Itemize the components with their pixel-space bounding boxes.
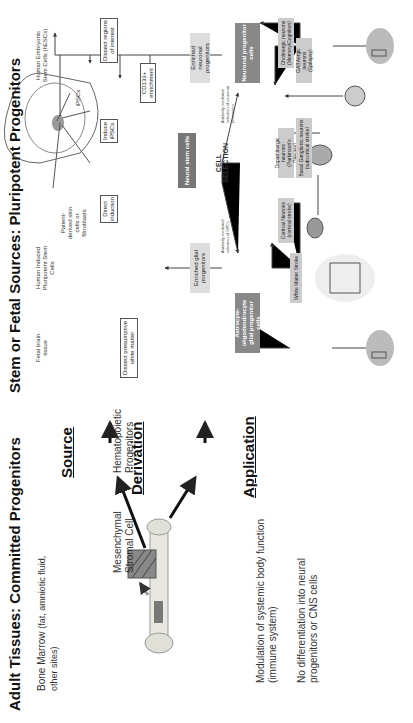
stem-cell-sources-figure: Adult Tissues: Committed Progenitors Bon… bbox=[0, 0, 413, 723]
enriched-neuronal-box: Enriched neuronal progenitors bbox=[190, 33, 210, 83]
human-figure bbox=[315, 254, 375, 302]
direct-induction-box: Direct induction bbox=[100, 195, 118, 223]
no-differentiation-label: No differentiation into neural progenito… bbox=[296, 533, 320, 683]
gabaergic-box: GABAergic neurons (Epilepsy) bbox=[296, 38, 312, 83]
white-matter-stroke-box: White Matter Stroke bbox=[290, 253, 302, 303]
dissect-white-matter-box: Dissect presumptive white matter bbox=[120, 318, 138, 378]
astrocyte-glial-box: Astrocyte-oligodendrocyte glial progenit… bbox=[235, 293, 260, 353]
cd133-enrichment-box: CD133+ enrichment bbox=[140, 63, 156, 103]
cortical-neurons-box: Cortical Neurons (cortical stroke) bbox=[278, 198, 294, 243]
bone-marrow-label: Bone Marrow (fat, amniotic fluid, other … bbox=[36, 551, 60, 691]
row-derivation: Derivation bbox=[128, 422, 145, 495]
enriched-glial-box: Enriched glial progenitors bbox=[190, 243, 210, 293]
adult-title: Adult Tissues: Committed Progenitors bbox=[6, 437, 23, 711]
bone-illustration bbox=[145, 519, 173, 653]
patient-cells-label: Patient-derived skin cells or fibroblast… bbox=[60, 203, 88, 243]
dissect-regions-box: Dissect regions of interest bbox=[100, 18, 118, 63]
ipsc-label: iPSCs bbox=[75, 88, 82, 108]
neural-stem-cells-box: Neural stem cells bbox=[178, 133, 196, 188]
pluri-title: Stem or Fetal Sources: Pluripotent Proge… bbox=[6, 58, 23, 393]
mesenchymal-label: Mesenchymal Stromal Cell bbox=[112, 493, 136, 573]
basal-ganglionic-sub: (subcortical stroke) bbox=[304, 127, 310, 169]
cell-selection-label: CELL SELECTION bbox=[215, 133, 229, 193]
dopaminergic-label: Dopaminergic neurons bbox=[274, 129, 286, 177]
fetal-brain-left-label: Fetal brain tissue bbox=[35, 328, 49, 368]
hipsc-label: Human Induced Pluripotent Stem Cells bbox=[35, 243, 56, 293]
cholinergic-box: Cholinergic neurons (Memory/Cognition) bbox=[278, 18, 294, 68]
connector-lines bbox=[0, 0, 413, 723]
cholinergic-sub: (Memory/Cognition) bbox=[286, 21, 292, 65]
antibody-opc-label: Antibody-mediated selection of OPCs bbox=[220, 213, 230, 253]
cortical-neurons-sub: (cortical stroke) bbox=[286, 203, 292, 237]
row-application: Application bbox=[240, 416, 257, 498]
modulation-label: Modulation of systemic body function (im… bbox=[255, 513, 279, 683]
basal-ganglionic-box: Basal Ganglionic neurons (subcortical st… bbox=[296, 118, 312, 178]
antibody-neural-label: Antibody-mediated selection of neuronal … bbox=[220, 83, 235, 123]
dopaminergic-box: Dopaminergic neurons (Parkinson's Diseas… bbox=[278, 128, 294, 178]
induce-ipscs-box: Induce iPSCs bbox=[100, 119, 118, 143]
bone-marrow-text: Bone Marrow bbox=[36, 632, 47, 691]
gabaergic-sub: (Epilepsy) bbox=[307, 49, 313, 71]
row-source: Source bbox=[58, 427, 75, 478]
hesc-label: Human Embryonic Stem Cells (hESCs) bbox=[35, 28, 49, 83]
gabaergic-label: GABAergic neurons bbox=[295, 39, 307, 82]
neuronal-progenitor-box: Neuronal progenitor cells bbox=[235, 23, 260, 83]
